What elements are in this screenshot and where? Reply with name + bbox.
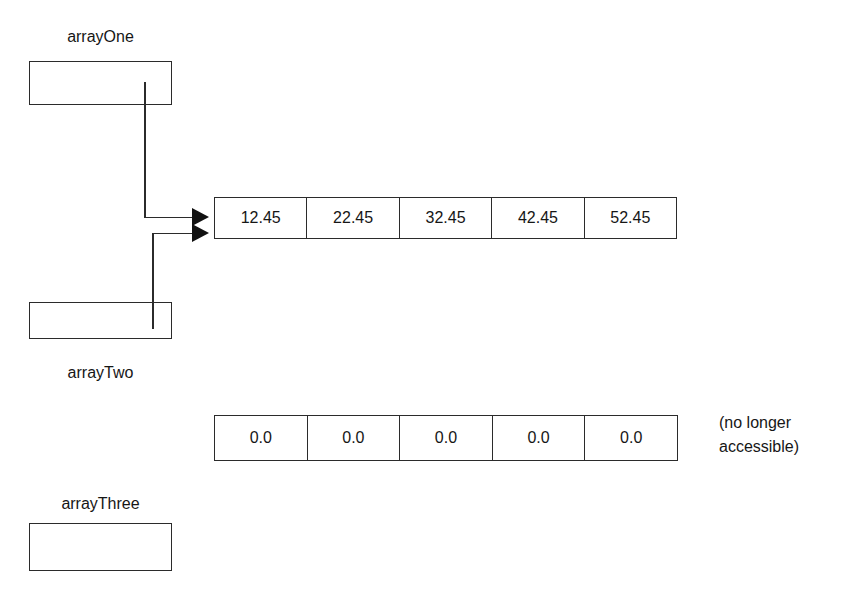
array-values-row: 12.45 22.45 32.45 42.45 52.45 — [214, 197, 677, 239]
array-orphan-row: 0.0 0.0 0.0 0.0 0.0 — [214, 415, 678, 461]
arrayone-label: arrayOne — [29, 27, 172, 46]
array-orphan-cell: 0.0 — [215, 416, 308, 460]
array-orphan-cell: 0.0 — [308, 416, 401, 460]
arrayone-connector-horizontal — [144, 217, 194, 219]
no-longer-accessible-note: (no longer accessible) — [719, 411, 799, 459]
arraythree-label: arrayThree — [29, 494, 172, 513]
array-values-cell: 42.45 — [492, 198, 584, 238]
note-line-2: accessible) — [719, 435, 799, 459]
arraythree-reference-box — [29, 523, 172, 571]
arraytwo-label: arrayTwo — [29, 363, 172, 382]
note-line-1: (no longer — [719, 411, 799, 435]
array-values-cell: 12.45 — [215, 198, 307, 238]
arraytwo-connector-horizontal — [152, 233, 194, 235]
array-orphan-cell: 0.0 — [585, 416, 677, 460]
array-values-cell: 32.45 — [400, 198, 492, 238]
arraytwo-connector-vertical — [152, 233, 154, 329]
array-orphan-cell: 0.0 — [493, 416, 586, 460]
diagram-canvas: arrayOne arrayTwo 12.45 22.45 32.45 42.4… — [0, 0, 849, 600]
array-orphan-cell: 0.0 — [400, 416, 493, 460]
array-values-cell: 52.45 — [585, 198, 676, 238]
arraytwo-reference-box — [29, 302, 172, 339]
arrayone-reference-box — [29, 61, 172, 105]
arrayone-connector-vertical — [144, 82, 146, 218]
arraytwo-arrowhead-icon — [192, 224, 209, 242]
array-values-cell: 22.45 — [307, 198, 399, 238]
